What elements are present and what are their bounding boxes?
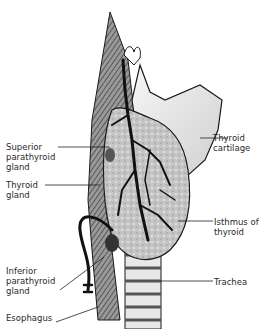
label-thyroid-cartilage: Thyroid cartilage xyxy=(213,133,250,153)
label-superior-parathyroid-gland: Superior parathyroid gland xyxy=(6,142,55,172)
inferior-parathyroid-shape xyxy=(105,234,119,252)
label-trachea: Trachea xyxy=(214,277,247,287)
superior-parathyroid-shape xyxy=(105,148,115,162)
label-thyroid-gland: Thyroid gland xyxy=(6,180,38,200)
label-inferior-parathyroid-gland: Inferior parathyroid gland xyxy=(6,266,55,296)
anatomy-diagram: Superior parathyroid gland Thyroid gland… xyxy=(0,0,265,329)
label-esophagus: Esophagus xyxy=(6,313,52,323)
label-isthmus-of-thyroid: Isthmus of thyroid xyxy=(214,217,259,237)
